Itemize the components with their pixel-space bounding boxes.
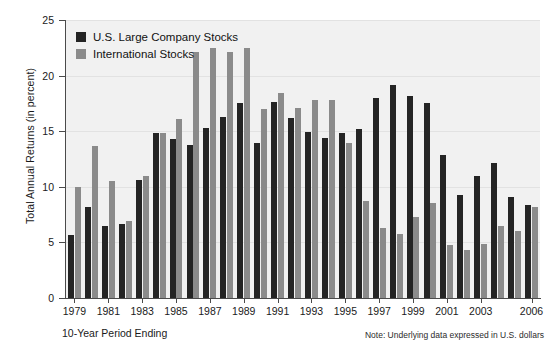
- y-tick-mark-20: [59, 76, 65, 77]
- x-tick-label-1989: 1989: [227, 306, 261, 317]
- bar-us-large-company-1984: [153, 133, 159, 298]
- x-tick-mark-1987: [210, 298, 211, 303]
- x-tick-mark-1981: [108, 298, 109, 303]
- x-tick-mark-2003: [481, 298, 482, 303]
- bar-us-large-company-1980: [85, 207, 91, 298]
- bar-us-large-company-1991: [271, 102, 277, 298]
- x-tick-label-1995: 1995: [328, 306, 362, 317]
- bar-us-large-company-1995: [339, 133, 345, 298]
- bar-international-1995: [346, 143, 352, 298]
- bar-international-1989: [244, 48, 250, 298]
- y-axis-title: Total Annual Returns (in percent): [24, 31, 36, 261]
- y-tick-mark-0: [59, 298, 65, 299]
- y-tick-label-10: 10: [0, 182, 54, 192]
- bar-us-large-company-1987: [203, 128, 209, 298]
- bar-international-1988: [227, 52, 233, 298]
- x-tick-label-2003: 2003: [464, 306, 498, 317]
- bar-international-1997: [380, 228, 386, 298]
- bar-international-1991: [278, 93, 284, 298]
- legend-swatch-us-icon: [76, 32, 86, 42]
- bar-international-2002: [464, 250, 470, 298]
- bar-us-large-company-1989: [237, 103, 243, 298]
- x-tick-label-2006: 2006: [515, 306, 549, 317]
- bar-us-large-company-1996: [356, 129, 362, 298]
- bar-international-1979: [75, 187, 81, 298]
- legend-item-international: International Stocks: [76, 46, 238, 61]
- bar-international-1999: [413, 217, 419, 298]
- x-tick-label-1987: 1987: [193, 306, 227, 317]
- y-tick-mark-25: [59, 20, 65, 21]
- bar-international-2003: [481, 244, 487, 298]
- y-tick-label-20: 20: [0, 71, 54, 81]
- legend-label-international: International Stocks: [93, 48, 194, 60]
- x-tick-label-1993: 1993: [294, 306, 328, 317]
- bar-international-1990: [261, 109, 267, 298]
- x-tick-label-1991: 1991: [261, 306, 295, 317]
- x-tick-label-1979: 1979: [57, 306, 91, 317]
- bar-us-large-company-1990: [254, 143, 260, 298]
- bar-international-2001: [447, 245, 453, 298]
- bar-international-1993: [312, 100, 318, 298]
- bar-us-large-company-2004: [491, 163, 497, 298]
- bar-international-2006: [532, 207, 538, 298]
- y-axis-line: [65, 20, 66, 299]
- y-tick-label-25: 25: [0, 15, 54, 25]
- bar-us-large-company-1981: [102, 226, 108, 298]
- bar-us-large-company-2000: [424, 103, 430, 298]
- bar-us-large-company-2003: [474, 176, 480, 298]
- bar-international-1981: [109, 181, 115, 298]
- bar-international-2000: [430, 203, 436, 298]
- bar-us-large-company-2001: [440, 155, 446, 298]
- bar-international-1982: [126, 221, 132, 298]
- bar-us-large-company-1986: [187, 145, 193, 298]
- bar-us-large-company-1982: [119, 224, 125, 299]
- chart-legend: U.S. Large Company Stocks International …: [76, 29, 238, 63]
- x-tick-label-1999: 1999: [396, 306, 430, 317]
- bar-international-1984: [160, 133, 166, 298]
- legend-swatch-international-icon: [76, 49, 86, 59]
- x-tick-mark-1997: [379, 298, 380, 303]
- bar-us-large-company-1983: [136, 180, 142, 298]
- x-tick-label-1981: 1981: [91, 306, 125, 317]
- bar-international-2005: [515, 231, 521, 298]
- bar-international-1994: [329, 100, 335, 298]
- legend-label-us: U.S. Large Company Stocks: [93, 31, 238, 43]
- gridline-y-15: [66, 131, 540, 132]
- x-tick-mark-1993: [311, 298, 312, 303]
- x-tick-mark-1983: [142, 298, 143, 303]
- x-tick-mark-2006: [532, 298, 533, 303]
- x-axis-title: 10-Year Period Ending: [62, 327, 167, 339]
- bar-international-1992: [295, 108, 301, 298]
- bar-us-large-company-1993: [305, 132, 311, 298]
- y-tick-mark-15: [59, 131, 65, 132]
- bar-international-1983: [143, 176, 149, 298]
- bar-us-large-company-1997: [373, 98, 379, 298]
- x-tick-mark-1979: [74, 298, 75, 303]
- x-tick-mark-1995: [345, 298, 346, 303]
- y-tick-mark-10: [59, 187, 65, 188]
- bar-us-large-company-1979: [68, 235, 74, 298]
- gridline-y-25: [66, 20, 540, 21]
- y-tick-label-0: 0: [0, 293, 54, 303]
- bar-international-2004: [498, 226, 504, 298]
- y-tick-mark-5: [59, 242, 65, 243]
- x-tick-mark-1999: [413, 298, 414, 303]
- y-tick-label-5: 5: [0, 237, 54, 247]
- x-tick-mark-1991: [278, 298, 279, 303]
- x-tick-label-1985: 1985: [159, 306, 193, 317]
- bar-international-1980: [92, 146, 98, 298]
- x-tick-mark-1985: [176, 298, 177, 303]
- bar-chart-figure: Total Annual Returns (in percent) 051015…: [0, 0, 552, 353]
- bar-international-1986: [193, 52, 199, 298]
- bar-us-large-company-1988: [220, 117, 226, 298]
- bar-us-large-company-1998: [390, 85, 396, 299]
- x-tick-label-2001: 2001: [430, 306, 464, 317]
- x-tick-label-1983: 1983: [125, 306, 159, 317]
- bar-us-large-company-1994: [322, 138, 328, 298]
- bar-us-large-company-2006: [525, 205, 531, 298]
- bar-us-large-company-1992: [288, 118, 294, 298]
- bar-us-large-company-1999: [407, 96, 413, 298]
- y-tick-label-15: 15: [0, 126, 54, 136]
- x-tick-label-1997: 1997: [362, 306, 396, 317]
- bar-international-1987: [210, 48, 216, 298]
